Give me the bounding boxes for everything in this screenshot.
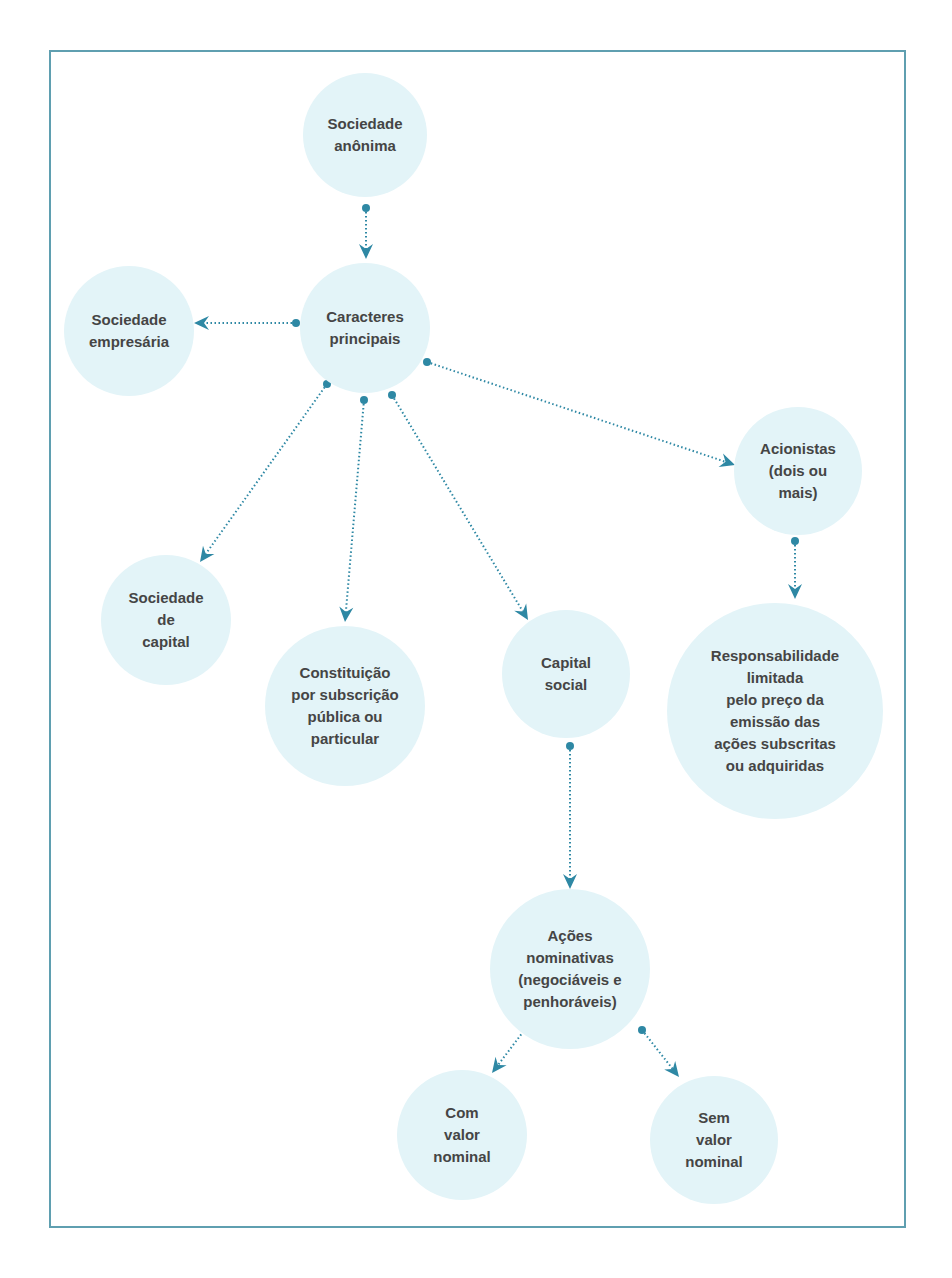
node-label: Ações nominativas (negociáveis e penhorá…	[518, 925, 621, 1013]
node-sociedade-anonima: Sociedade anônima	[303, 73, 427, 197]
node-label: Sem valor nominal	[685, 1107, 743, 1173]
node-label: Caracteres principais	[326, 306, 404, 350]
node-label: Acionistas (dois ou mais)	[760, 438, 836, 504]
node-label: Sociedade de capital	[128, 587, 203, 653]
node-label: Com valor nominal	[433, 1102, 491, 1168]
node-caracteres-principais: Caracteres principais	[300, 263, 430, 393]
node-label: Constituição por subscrição pública ou p…	[291, 662, 399, 750]
node-label: Responsabilidade limitada pelo preço da …	[711, 645, 839, 777]
node-capital-social: Capital social	[502, 610, 630, 738]
node-sem-valor-nominal: Sem valor nominal	[650, 1076, 778, 1204]
node-label: Sociedade empresária	[89, 309, 169, 353]
node-acoes-nominativas: Ações nominativas (negociáveis e penhorá…	[490, 889, 650, 1049]
node-sociedade-de-capital: Sociedade de capital	[101, 555, 231, 685]
node-sociedade-empresaria: Sociedade empresária	[64, 266, 194, 396]
node-acionistas: Acionistas (dois ou mais)	[734, 407, 862, 535]
node-label: Sociedade anônima	[327, 113, 402, 157]
node-responsabilidade-limitada: Responsabilidade limitada pelo preço da …	[667, 603, 883, 819]
node-constituicao: Constituição por subscrição pública ou p…	[265, 626, 425, 786]
node-label: Capital social	[541, 652, 591, 696]
node-com-valor-nominal: Com valor nominal	[397, 1070, 527, 1200]
